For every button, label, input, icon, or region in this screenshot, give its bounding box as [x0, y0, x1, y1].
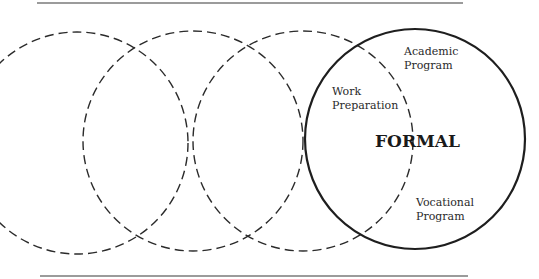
- work-line1: Work: [332, 85, 398, 99]
- dashed-circle-2: [83, 31, 303, 251]
- vocational-line1: Vocational: [416, 196, 474, 210]
- formal-label: FORMAL: [375, 131, 460, 151]
- academic-program-label: Academic Program: [404, 45, 458, 73]
- vocational-line2: Program: [416, 210, 474, 224]
- work-preparation-label: Work Preparation: [332, 85, 398, 113]
- academic-line2: Program: [404, 59, 458, 73]
- work-line2: Preparation: [332, 99, 398, 113]
- vocational-program-label: Vocational Program: [416, 196, 474, 224]
- academic-line1: Academic: [404, 45, 458, 59]
- dashed-circle-1: [0, 32, 188, 254]
